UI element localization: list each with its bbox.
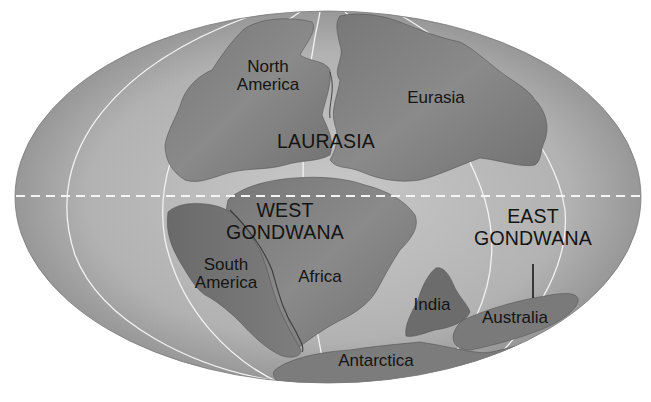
eurasia-landmass xyxy=(330,14,547,181)
pangaea-map: North America Eurasia LAURASIA WEST GOND… xyxy=(0,0,651,402)
map-canvas xyxy=(0,0,651,402)
